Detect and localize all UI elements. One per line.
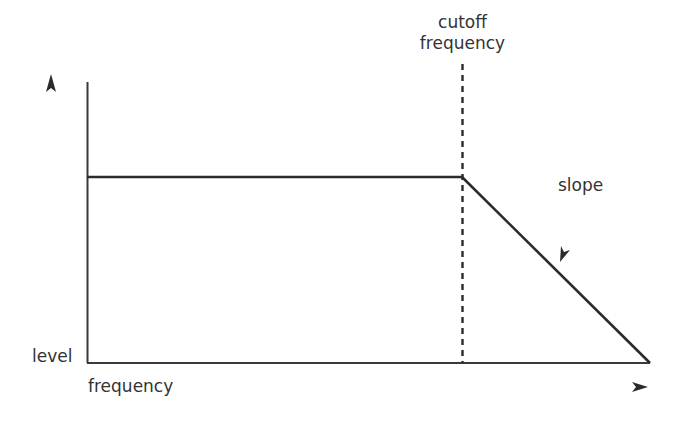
cutoff-label-line2: frequency xyxy=(405,35,520,52)
up-arrow-icon xyxy=(46,74,56,92)
cutoff-label-line1: cutoff xyxy=(405,14,520,31)
x-axis-label: frequency xyxy=(88,378,173,395)
rolloff-slope-line xyxy=(462,177,650,363)
slope-pointer-arrow-icon xyxy=(560,246,570,262)
slope-label: slope xyxy=(558,177,603,194)
right-arrow-icon xyxy=(632,382,648,392)
cutoff-label: cutoff frequency xyxy=(405,14,520,52)
y-axis-label: level xyxy=(32,348,72,365)
filter-diagram xyxy=(0,0,680,423)
